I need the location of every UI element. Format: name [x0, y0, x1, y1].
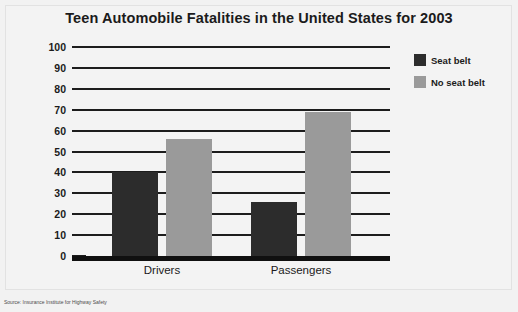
chart-title: Teen Automobile Fatalities in the United… [0, 10, 518, 26]
bar-passengers-seat-belt [251, 202, 297, 258]
gridline [86, 46, 390, 48]
y-tick-mark [72, 151, 86, 153]
y-tick-mark [72, 130, 86, 132]
y-tick-label: 0 [60, 251, 66, 261]
y-tick-label: 90 [54, 63, 66, 73]
y-tick-label: 30 [54, 188, 66, 198]
x-axis-baseline [72, 256, 390, 261]
source-note: Source: Insurance Institute for Highway … [4, 299, 107, 305]
y-tick-mark [72, 192, 86, 194]
plot-area: 0102030405060708090100 DriversPassengers [86, 47, 390, 258]
y-tick-mark [72, 109, 86, 111]
y-tick-label: 10 [54, 230, 66, 240]
y-tick-mark [72, 67, 86, 69]
y-tick-mark [72, 171, 86, 173]
y-tick-mark [72, 88, 86, 90]
legend-item-seat-belt: Seat belt [414, 51, 485, 69]
legend: Seat belt No seat belt [414, 51, 485, 95]
gridline [86, 88, 390, 90]
y-tick-label: 40 [54, 167, 66, 177]
bar-passengers-no-seat-belt [305, 112, 351, 258]
legend-swatch-seat-belt [414, 54, 426, 66]
bar-drivers-no-seat-belt [166, 139, 212, 258]
legend-swatch-no-seat-belt [414, 76, 426, 88]
y-tick-label: 100 [48, 42, 66, 52]
x-tick-label: Drivers [102, 264, 222, 276]
y-tick-mark [72, 234, 86, 236]
gridline [86, 109, 390, 111]
y-tick-mark [72, 46, 86, 48]
bar-drivers-seat-belt [112, 172, 158, 258]
chart-figure: Teen Automobile Fatalities in the United… [0, 0, 518, 312]
y-tick-label: 70 [54, 105, 66, 115]
legend-label-seat-belt: Seat belt [431, 55, 471, 66]
gridline [86, 67, 390, 69]
legend-label-no-seat-belt: No seat belt [431, 77, 485, 88]
y-tick-label: 80 [54, 84, 66, 94]
y-tick-label: 50 [54, 147, 66, 157]
y-tick-mark [72, 213, 86, 215]
legend-item-no-seat-belt: No seat belt [414, 73, 485, 91]
x-tick-label: Passengers [241, 264, 361, 276]
y-tick-label: 60 [54, 126, 66, 136]
y-tick-label: 20 [54, 209, 66, 219]
